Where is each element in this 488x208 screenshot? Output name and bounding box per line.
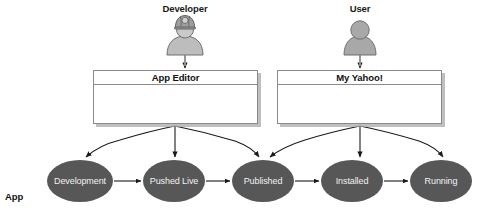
arrow-app-editor-to-published [175,126,259,157]
window-app-editor[interactable]: App Editor [93,70,258,124]
user-label-text: User [350,3,371,14]
stage-node-running[interactable]: Running [410,160,472,202]
stage-node-development[interactable]: Development [47,160,113,202]
window-my-yahoo[interactable]: My Yahoo! [277,70,442,124]
stage-label-published: Published [244,176,283,186]
arrow-my-yahoo-to-published [270,126,360,157]
arrow-app-editor-to-development [86,126,175,157]
app-stages-label-line1: App [5,192,39,203]
stage-node-published[interactable]: Published [232,160,294,202]
window-body-my-yahoo [278,85,441,123]
stage-node-pushed-live[interactable]: Pushed Live [143,160,205,202]
person-with-hardhat-icon [167,16,203,66]
diagram-canvas: Developer User App Editor My Yahoo! App … [0,0,488,208]
stage-node-installed[interactable]: Installed [321,160,383,202]
stage-label-development: Development [54,176,106,186]
window-title-app-editor: App Editor [94,71,257,85]
person-icon [344,21,376,66]
app-stages-label: App Stages: [5,171,39,208]
actor-label-developer: Developer [145,3,225,14]
stage-label-running: Running [425,176,458,186]
developer-label-text: Developer [162,3,207,14]
window-body-app-editor [94,85,257,123]
arrow-my-yahoo-to-running [360,126,443,157]
window-title-my-yahoo: My Yahoo! [278,71,441,85]
stage-label-installed: Installed [336,176,369,186]
actor-label-user: User [320,3,400,14]
stage-label-pushed-live: Pushed Live [150,176,198,186]
